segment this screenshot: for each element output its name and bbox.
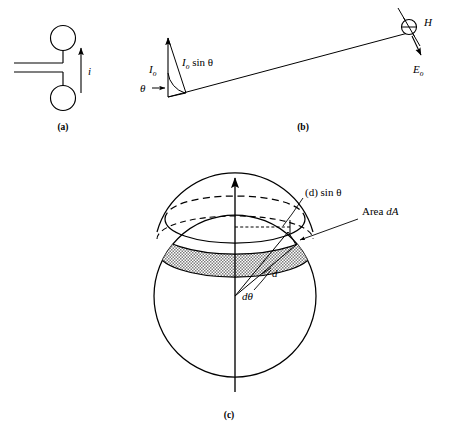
h-field-label: H [423,16,433,28]
panel-b: Io Io sin θ θ H Eo (b) [140,8,433,133]
dtheta-label: dθ [242,290,254,302]
area-da-leader [300,219,358,240]
e-field-label: Eo [412,63,424,78]
current-label: i [88,65,91,77]
area-da-label: Area dA [362,205,399,217]
figure-root: i (a) Io Io sin θ θ H [0,0,449,429]
dipole-upper-sphere [51,26,76,51]
d-label: d [272,267,278,279]
io-sin-theta-label: Io sin θ [181,56,213,71]
panel-a: i (a) [14,26,91,134]
panel-a-caption: (a) [57,122,68,133]
panel-b-caption: (b) [297,122,309,133]
triangle-base-segment [168,93,186,97]
panel-c-caption: (c) [224,410,235,421]
dipole-lower-sphere [51,86,76,111]
d-sin-theta-label: (d) sin θ [305,186,341,199]
theta-label: θ [140,82,146,94]
io-label: Io [148,63,157,78]
figure-svg: i (a) Io Io sin θ θ H [0,0,449,429]
panel-c: (d) sin θ Area dA d dθ (c) [154,173,399,421]
